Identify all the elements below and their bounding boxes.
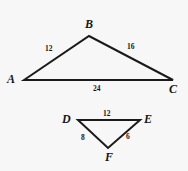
side-length-ac: 24: [93, 85, 101, 93]
side-length-ef: 6: [126, 133, 130, 141]
side-length-df: 8: [81, 134, 85, 142]
vertex-label-b: B: [85, 18, 93, 30]
side-length-bc: 16: [127, 43, 135, 51]
vertex-label-d: D: [62, 113, 71, 125]
vertex-label-a: A: [7, 73, 15, 85]
side-length-ab: 12: [45, 45, 53, 53]
vertex-label-f: F: [105, 151, 113, 163]
side-length-de: 12: [103, 110, 111, 118]
vertex-label-c: C: [169, 83, 177, 95]
triangle-def-path: [78, 120, 140, 148]
triangle-def-outline: [78, 120, 140, 148]
geometry-figure: A B C 12 16 24 D E F 12 8 6: [0, 0, 188, 171]
triangle-abc-outline: [24, 36, 173, 80]
vertex-label-e: E: [144, 113, 152, 125]
triangle-abc-path: [24, 36, 173, 80]
